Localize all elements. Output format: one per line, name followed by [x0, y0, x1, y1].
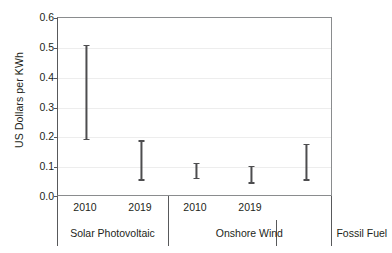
- x-category-label: Fossil Fuel: [331, 220, 392, 246]
- x-year-label: 2010: [73, 201, 96, 213]
- x-year-label: 2010: [183, 201, 206, 213]
- error-bar-cap-top: [248, 166, 254, 167]
- y-tick-label: 0.1: [30, 161, 54, 171]
- error-bar: [86, 45, 87, 140]
- y-tick-label: 0.2: [30, 131, 54, 141]
- error-bar-stem: [140, 140, 142, 180]
- error-bar-cap-bottom: [138, 179, 144, 180]
- error-bar-stem: [195, 163, 197, 179]
- y-axis-tick-labels: 0.6 0.5 0.4 0.3 0.2 0.1 0.0: [28, 0, 54, 253]
- error-bar: [306, 144, 307, 180]
- gridline: [58, 78, 331, 79]
- gridline: [58, 137, 331, 138]
- x-category-label: Onshore Wind: [168, 220, 331, 246]
- error-bar-cap-top: [138, 140, 144, 141]
- y-axis-title-text: US Dollars per KWh: [13, 52, 25, 148]
- error-bar: [251, 166, 252, 184]
- y-tick-label: 0.0: [30, 191, 54, 201]
- error-bar-cap-top: [303, 144, 309, 145]
- y-tickmark: [54, 48, 58, 49]
- y-tickmark: [54, 78, 58, 79]
- x-category-label: Solar Photovoltaic: [57, 220, 168, 246]
- error-bar-cap-bottom: [193, 178, 199, 179]
- error-bar-stem: [85, 45, 87, 140]
- error-bar: [196, 163, 197, 179]
- x-axis-year-row: 2010 2019 2010 2019: [57, 196, 332, 220]
- y-tick-label: 0.3: [30, 102, 54, 112]
- error-bar-stem: [250, 166, 252, 184]
- error-bar-cap-bottom: [303, 179, 309, 180]
- y-tick-label: 0.4: [30, 72, 54, 82]
- x-axis-area: 2010 2019 2010 2019 Solar Photovoltaic O…: [57, 196, 332, 246]
- y-tick-label: 0.5: [30, 42, 54, 52]
- y-tickmark: [54, 108, 58, 109]
- y-tick-label: 0.6: [30, 12, 54, 22]
- y-tickmark: [54, 137, 58, 138]
- error-bar: [141, 140, 142, 180]
- y-tickmark: [54, 18, 58, 19]
- error-bar-cap-top: [193, 163, 199, 164]
- x-year-label: 2019: [128, 201, 151, 213]
- error-bar-stem: [305, 144, 307, 180]
- y-axis-title: US Dollars per KWh: [8, 0, 30, 200]
- gridline: [58, 108, 331, 109]
- x-axis-category-row: Solar Photovoltaic Onshore Wind Fossil F…: [57, 220, 332, 246]
- error-bar-cap-bottom: [83, 139, 89, 140]
- x-year-label: 2019: [238, 201, 261, 213]
- error-bar-cap-bottom: [248, 182, 254, 183]
- plot-area: [57, 17, 332, 196]
- error-bar-cap-top: [83, 45, 89, 46]
- gridline: [58, 48, 331, 49]
- y-tickmark: [54, 167, 58, 168]
